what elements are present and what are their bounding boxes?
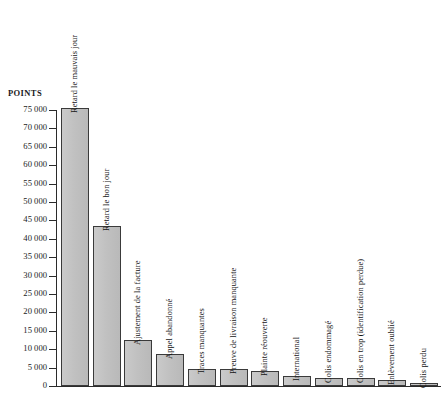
y-axis-tick-label: 25 000 [23,288,47,298]
y-axis-tick-label: 45 000 [23,214,47,224]
y-axis-tick-label: 20 000 [23,306,47,316]
bar-fill [125,341,151,385]
category-label: Preuve de livraison manquante [229,267,238,373]
y-axis-line [56,110,57,386]
bar-fill [157,355,183,385]
category-label: International [292,337,301,381]
category-label: Colis en trop (identification perdue) [356,259,365,383]
y-axis-tick-label: 10 000 [23,343,47,353]
category-label: Traces manquantes [197,308,206,374]
y-axis-tick-mark [49,349,56,350]
y-axis-tick-label: 5 000 [28,362,47,372]
y-axis-tick-mark [49,386,56,387]
y-axis-tick-label: 65 000 [23,141,47,151]
y-axis-tick-label: 50 000 [23,196,47,206]
y-axis-tick-mark [49,239,56,240]
y-axis-title: POINTS [8,88,42,98]
y-axis-tick-mark [49,147,56,148]
category-label: Ajustement de la facture [133,261,142,346]
bar [93,226,121,386]
category-label: Enlèvement oublié [387,321,396,386]
category-label: Plainte réouverte [260,317,269,376]
y-axis-tick-mark [49,257,56,258]
category-label: Colis endommagé [324,321,333,383]
category-label: Colis perdu [419,348,428,388]
y-axis-tick-mark [49,202,56,203]
y-axis-tick-mark [49,294,56,295]
y-axis-tick-mark [49,331,56,332]
y-axis-tick-mark [49,276,56,277]
y-axis-tick-label: 30 000 [23,270,47,280]
x-axis-line [56,386,441,387]
y-axis-tick-mark [49,110,56,111]
bar [61,108,89,386]
y-axis-tick-mark [49,165,56,166]
y-axis-tick-label: 70 000 [23,122,47,132]
bar-fill [94,227,120,385]
y-axis-tick-mark [49,220,56,221]
y-axis-tick-mark [49,368,56,369]
y-axis-tick-label: 75 000 [23,104,47,114]
category-label: Appel abandonné [165,298,174,358]
y-axis-tick-mark [49,128,56,129]
y-axis-tick-label: 55 000 [23,178,47,188]
category-label: Retard le bon jour [102,168,111,231]
y-axis-tick-label: 0 [43,380,47,390]
bar-fill [62,109,88,385]
bar-chart: POINTS 05 00010 00015 00020 00025 00030 … [0,0,443,400]
y-axis-tick-label: 35 000 [23,251,47,261]
bar [124,340,152,386]
category-label: Retard le mauvais jour [70,35,79,113]
y-axis-tick-label: 15 000 [23,325,47,335]
y-axis-tick-mark [49,312,56,313]
y-axis-tick-mark [49,184,56,185]
y-axis-tick-label: 60 000 [23,159,47,169]
y-axis-tick-label: 40 000 [23,233,47,243]
